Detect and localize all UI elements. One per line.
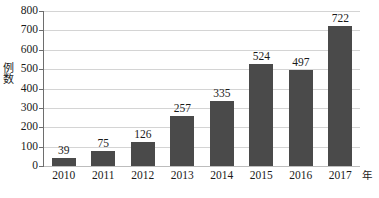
x-axis-tick-label: 2011 bbox=[81, 170, 125, 182]
x-axis-tick-label: 2016 bbox=[279, 170, 323, 182]
y-axis-tick-label: 200 bbox=[6, 121, 38, 133]
gridline bbox=[44, 166, 360, 167]
x-axis-tick-label: 2015 bbox=[239, 170, 283, 182]
y-axis-tick-label: 500 bbox=[6, 63, 38, 75]
y-axis-tick-label: 400 bbox=[6, 83, 38, 95]
x-axis-tick-label: 2012 bbox=[121, 170, 165, 182]
x-axis-tick-label: 2014 bbox=[200, 170, 244, 182]
bar-value-label: 497 bbox=[281, 57, 321, 69]
bar bbox=[131, 142, 155, 166]
bar-value-label: 126 bbox=[123, 129, 163, 141]
x-axis-tick-label: 2017 bbox=[318, 170, 362, 182]
y-axis-tick-label: 600 bbox=[6, 44, 38, 56]
bar-value-label: 524 bbox=[241, 51, 281, 63]
bar bbox=[52, 158, 76, 166]
y-axis-tick-label: 0 bbox=[6, 160, 38, 172]
bar bbox=[210, 101, 234, 166]
x-axis-tick-label: 2013 bbox=[160, 170, 204, 182]
bar-chart: 例数 0100200300400500600700800 39751262573… bbox=[0, 0, 379, 198]
bar-value-label: 39 bbox=[44, 145, 84, 157]
y-axis-tick-label: 800 bbox=[6, 5, 38, 17]
y-axis-tick-label: 700 bbox=[6, 24, 38, 36]
bar bbox=[249, 64, 273, 166]
bar bbox=[91, 151, 115, 166]
bar-value-label: 335 bbox=[202, 88, 242, 100]
x-axis-tick-label: 2010 bbox=[42, 170, 86, 182]
bar bbox=[170, 116, 194, 166]
y-axis-tick-label: 100 bbox=[6, 141, 38, 153]
x-axis-title: 年 bbox=[362, 171, 372, 182]
bar-value-label: 75 bbox=[83, 138, 123, 150]
bar-value-label: 257 bbox=[162, 103, 202, 115]
bar bbox=[328, 26, 352, 166]
bar bbox=[289, 70, 313, 166]
bar-value-label: 722 bbox=[320, 13, 360, 25]
y-axis-tick-label: 300 bbox=[6, 102, 38, 114]
